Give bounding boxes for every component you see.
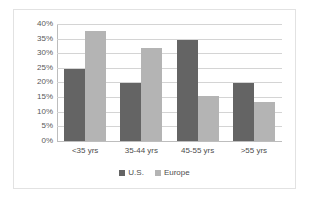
bar-europe[interactable] [85,31,106,141]
bar-us[interactable] [177,40,198,142]
chart-container: 40% 35% 30% 25% 20% 15% 10% 5% 0% [13,9,296,189]
bar-group [226,24,282,141]
x-axis-labels: <35 yrs 35-44 yrs 45-55 yrs >55 yrs [57,146,282,155]
bar-europe[interactable] [141,48,162,141]
x-tick-label: >55 yrs [226,146,282,155]
x-tick-label: <35 yrs [57,146,113,155]
y-tick-label: 0% [19,137,53,145]
y-axis-labels: 40% 35% 30% 25% 20% 15% 10% 5% 0% [16,24,53,141]
bar-europe[interactable] [254,102,275,141]
legend-swatch-icon [155,170,161,176]
chart-legend: U.S. Europe [14,168,295,177]
y-tick-label: 20% [19,78,53,86]
bar-group [113,24,169,141]
y-tick-label: 10% [19,108,53,116]
bar-us[interactable] [120,83,141,141]
y-tick-label: 35% [19,35,53,43]
legend-item-us[interactable]: U.S. [119,168,144,177]
legend-label: U.S. [128,168,144,177]
legend-label: Europe [164,168,190,177]
bar-us[interactable] [64,69,85,142]
bar-us[interactable] [233,83,254,141]
y-tick-label: 15% [19,93,53,101]
y-tick-label: 40% [19,20,53,28]
x-tick-label: 45-55 yrs [170,146,226,155]
bar-europe[interactable] [198,96,219,141]
x-tick-label: 35-44 yrs [113,146,169,155]
bar-group [57,24,113,141]
plot-area [57,24,282,141]
y-tick-label: 30% [19,49,53,57]
bar-group [170,24,226,141]
bars-layer [57,24,282,141]
y-tick-label: 25% [19,64,53,72]
legend-item-europe[interactable]: Europe [155,168,190,177]
legend-swatch-icon [119,170,125,176]
y-tick-label: 5% [19,122,53,130]
